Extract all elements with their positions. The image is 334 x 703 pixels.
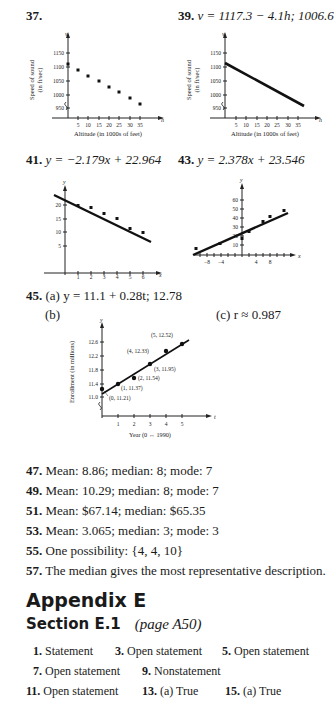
- svg-text:8: 8: [269, 259, 272, 265]
- problem-number: 43.: [178, 152, 194, 167]
- problem-number: 39.: [178, 8, 194, 23]
- svg-text:−4: −4: [218, 259, 224, 265]
- svg-text:950: 950: [56, 105, 65, 111]
- svg-text:1100: 1100: [210, 64, 221, 70]
- svg-text:15: 15: [56, 216, 62, 222]
- problem-part-a: (a) y = 11.1 + 0.28t; 12.78: [46, 288, 183, 303]
- problem-number: 45.: [26, 288, 42, 303]
- svg-text:10: 10: [56, 229, 62, 235]
- problem-41: 41. y = −2.179x + 22.964: [26, 152, 161, 168]
- problem-45c: (c) r ≈ 0.987: [216, 307, 281, 323]
- svg-text:4: 4: [116, 274, 119, 280]
- problem-49: 49. Mean: 10.29; median: 8; mode: 7: [26, 483, 219, 499]
- svg-text:x: x: [158, 272, 162, 278]
- problem-47: 47. Mean: 8.86; median: 8; mode: 7: [26, 463, 212, 479]
- problem-43: 43. y = 2.378x + 23.546: [178, 152, 305, 168]
- svg-text:h: h: [319, 117, 322, 123]
- section-title: Section E.1: [26, 615, 121, 633]
- svg-text:5: 5: [129, 274, 132, 280]
- svg-text:2: 2: [133, 421, 136, 427]
- appendix-item-1: 1. Statement: [33, 644, 93, 659]
- problem-37: 37.: [26, 8, 42, 24]
- svg-text:20: 20: [106, 122, 112, 128]
- svg-text:(in ft/sec): (in ft/sec): [193, 67, 201, 92]
- svg-text:(3, 11.95): (3, 11.95): [154, 366, 176, 373]
- svg-text:20: 20: [264, 122, 270, 128]
- svg-text:20: 20: [56, 202, 62, 208]
- svg-text:h: h: [161, 117, 164, 123]
- svg-text:25: 25: [116, 122, 122, 128]
- svg-text:3: 3: [149, 421, 152, 427]
- svg-text:4: 4: [165, 421, 168, 427]
- svg-text:12.6: 12.6: [88, 339, 98, 345]
- svg-text:10: 10: [243, 122, 249, 128]
- svg-text:5: 5: [235, 122, 238, 128]
- svg-text:1: 1: [77, 274, 80, 280]
- svg-text:5: 5: [181, 421, 184, 427]
- problem-51: 51. Mean: $67.14; median: $65.35: [26, 503, 205, 519]
- problem-55: 55. One possibility: {4, 4, 10}: [26, 543, 183, 559]
- chart-43-scatter-regression: y x 60 50 40 30 20 10 −8 −4 4 8: [190, 175, 315, 275]
- svg-text:v: v: [222, 31, 225, 37]
- svg-text:10: 10: [233, 242, 239, 248]
- appendix-item-3: 3. Open statement: [115, 644, 202, 659]
- x-axis-label: Year (0 ↔ 1990): [129, 431, 171, 439]
- svg-text:1150: 1150: [210, 50, 221, 56]
- chart-41-scatter-regression: y x 20 15 10 5 1 2 3 4 5 6: [40, 175, 165, 280]
- svg-text:11.8: 11.8: [89, 367, 99, 373]
- svg-text:(1, 11.37): (1, 11.37): [121, 385, 143, 392]
- svg-text:3: 3: [103, 274, 106, 280]
- svg-text:6: 6: [142, 274, 145, 280]
- svg-text:11.4: 11.4: [89, 381, 99, 387]
- svg-text:60: 60: [233, 197, 239, 203]
- appendix-item-11: 11. Open statement: [26, 684, 118, 699]
- chart-45b-enrollment-scatter: y t 12.6 12.2 11.8 11.4 11.0 1 2 3 4 5 (…: [20, 318, 220, 443]
- svg-text:30: 30: [285, 122, 291, 128]
- svg-text:−8: −8: [204, 259, 210, 265]
- svg-text:y: y: [99, 318, 103, 323]
- svg-text:(0, 11.21): (0, 11.21): [109, 395, 131, 402]
- page-reference: (page A50): [135, 616, 202, 632]
- svg-text:t: t: [214, 414, 216, 420]
- problem-45a: 45. (a) y = 11.1 + 0.28t; 12.78: [26, 288, 182, 304]
- problem-number: 37.: [26, 8, 42, 23]
- svg-text:35: 35: [137, 122, 143, 128]
- svg-text:1000: 1000: [53, 92, 64, 98]
- svg-text:1050: 1050: [53, 78, 64, 84]
- problem-number: 41.: [26, 152, 42, 167]
- svg-text:15: 15: [96, 122, 102, 128]
- svg-text:1: 1: [117, 421, 120, 427]
- svg-text:1000: 1000: [210, 92, 221, 98]
- svg-text:10: 10: [85, 122, 91, 128]
- svg-text:11.0: 11.0: [89, 394, 99, 400]
- appendix-item-15: 15. (a) True: [225, 684, 281, 699]
- x-axis-label: Altitude (in 1000s of feet): [231, 130, 299, 138]
- svg-text:30: 30: [127, 122, 133, 128]
- svg-text:5: 5: [77, 122, 80, 128]
- svg-text:1100: 1100: [53, 64, 64, 70]
- svg-text:Speed of sound: Speed of sound: [28, 59, 35, 100]
- svg-text:(5, 12.52): (5, 12.52): [151, 332, 173, 339]
- svg-text:v: v: [65, 31, 68, 37]
- problem-equation: v = 1117.3 − 4.1h; 1006.6: [198, 8, 334, 23]
- svg-text:x: x: [297, 253, 301, 259]
- svg-text:y: y: [239, 177, 243, 183]
- y-axis-label: Enrollment (in millions): [68, 341, 76, 403]
- problem-equation: y = −2.179x + 22.964: [46, 152, 162, 167]
- svg-text:35: 35: [295, 122, 301, 128]
- svg-text:y: y: [62, 179, 66, 185]
- svg-text:40: 40: [233, 215, 239, 221]
- svg-text:(in ft/sec): (in ft/sec): [36, 67, 44, 92]
- svg-text:25: 25: [274, 122, 280, 128]
- appendix-item-7: 7. Open statement: [33, 664, 120, 679]
- svg-text:(4, 12.33): (4, 12.33): [127, 348, 149, 355]
- appendix-item-13: 13. (a) True: [142, 684, 198, 699]
- svg-text:15: 15: [254, 122, 260, 128]
- problem-equation: y = 2.378x + 23.546: [198, 152, 305, 167]
- svg-text:Speed of sound: Speed of sound: [185, 59, 192, 100]
- appendix-item-5: 5. Open statement: [222, 644, 309, 659]
- problem-57: 57. The median gives the most representa…: [26, 563, 326, 579]
- svg-text:4: 4: [255, 259, 258, 265]
- problem-39: 39. v = 1117.3 − 4.1h; 1006.6: [178, 8, 334, 24]
- svg-text:(2, 11.54): (2, 11.54): [138, 375, 160, 382]
